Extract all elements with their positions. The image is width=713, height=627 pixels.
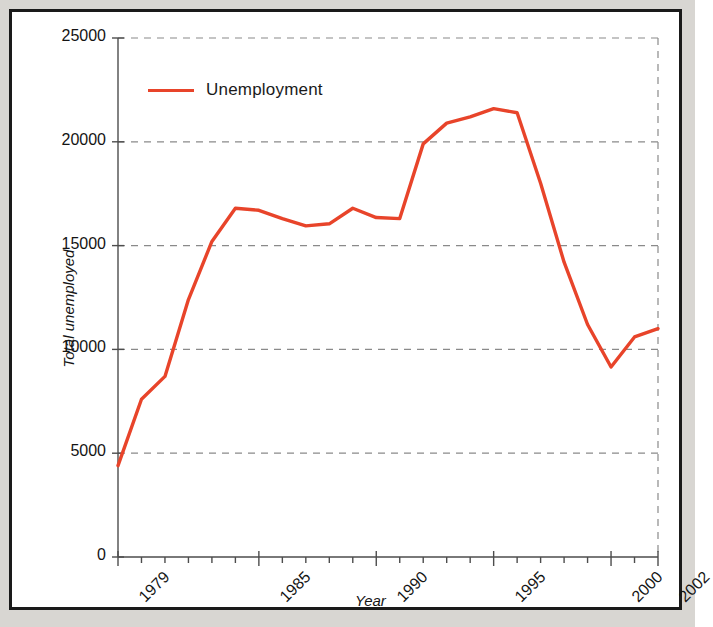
y-axis-title: Total unemployed xyxy=(60,219,77,399)
y-tick-label: 5000 xyxy=(16,442,106,460)
series-unemployment xyxy=(118,109,658,466)
chart-legend: Unemployment xyxy=(148,80,323,100)
legend-line-swatch xyxy=(148,89,194,92)
y-tick-label: 25000 xyxy=(16,27,106,45)
y-tick-label: 20000 xyxy=(16,131,106,149)
x-axis-title: Year xyxy=(355,592,386,609)
gridlines-group xyxy=(118,38,658,453)
legend-label: Unemployment xyxy=(206,80,323,100)
y-tick-label: 0 xyxy=(16,546,106,564)
x-axis-ticks xyxy=(118,551,658,566)
